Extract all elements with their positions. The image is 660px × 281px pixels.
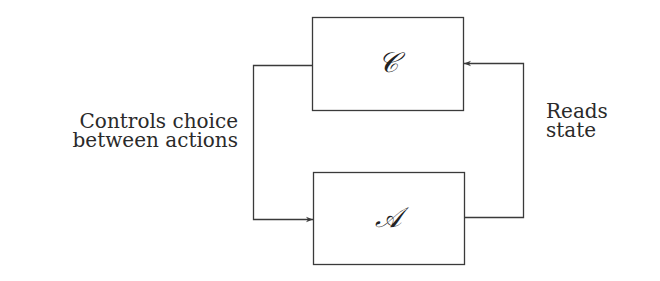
node-c-symbol: 𝒞 (368, 46, 408, 80)
edge-a-to-c (464, 64, 524, 218)
edge-c-to-a (254, 66, 314, 220)
node-a-symbol: 𝒜 (368, 201, 408, 235)
edge-label-left: Controls choice between actions (73, 112, 238, 150)
edge-label-right-line2: state (546, 121, 608, 140)
edge-label-left-line2: between actions (73, 131, 238, 150)
edge-label-right: Reads state (546, 102, 608, 140)
